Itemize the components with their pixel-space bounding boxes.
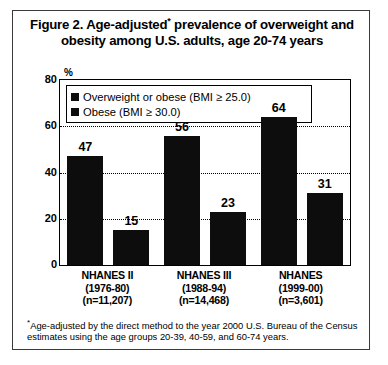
bar-value-label: 31 <box>318 177 332 191</box>
bar-value-label: 47 <box>78 140 92 154</box>
bar <box>164 136 200 266</box>
title-text-primary: Figure 2. Age-adjusted <box>30 17 167 32</box>
bar-value-label: 15 <box>124 214 138 228</box>
figure-container: Figure 2. Age-adjusted* prevalence of ov… <box>12 10 370 350</box>
x-axis-label-line: (n=14,468) <box>156 294 253 307</box>
figure-footnote: *Age-adjusted by the direct method to th… <box>27 320 361 343</box>
x-axis-group-label: NHANES(1999-00)(n=3,601) <box>252 269 349 307</box>
legend-swatch-icon <box>71 93 79 101</box>
x-axis-label-line: NHANES II <box>59 269 156 282</box>
y-axis: 020406080 <box>27 79 57 266</box>
x-axis-label-line: NHANES <box>252 269 349 282</box>
y-axis-tick-label: 20 <box>35 212 57 224</box>
x-axis-label-line: (n=3,601) <box>252 294 349 307</box>
bar-value-label: 64 <box>272 101 286 115</box>
bar <box>67 156 103 265</box>
x-axis-label-line: NHANES III <box>156 269 253 282</box>
x-axis-group-label: NHANES II(1976-80)(n=11,207) <box>59 269 156 307</box>
legend-label: Obese (BMI ≥ 30.0) <box>83 106 181 118</box>
x-axis-label-line: (1976-80) <box>59 282 156 295</box>
y-axis-unit-label: % <box>64 67 73 78</box>
x-axis-group-label: NHANES III(1988-94)(n=14,468) <box>156 269 253 307</box>
x-axis-label-line: (1999-00) <box>252 282 349 295</box>
x-axis-category-labels: NHANES II(1976-80)(n=11,207)NHANES III(1… <box>59 269 351 319</box>
bar <box>210 212 246 265</box>
bar <box>307 193 343 265</box>
y-axis-tick-label: 0 <box>35 258 57 270</box>
plot-area: Overweight or obese (BMI ≥ 25.0) Obese (… <box>59 79 351 266</box>
bar-value-label: 23 <box>221 196 235 210</box>
page-title: Figure 2. Age-adjusted* prevalence of ov… <box>21 17 363 49</box>
gridline <box>60 173 350 174</box>
bar <box>261 117 297 265</box>
x-axis-label-line: (n=11,207) <box>59 294 156 307</box>
x-axis-label-line: (1988-94) <box>156 282 253 295</box>
legend-label: Overweight or obese (BMI ≥ 25.0) <box>83 91 251 103</box>
y-axis-tick-label: 40 <box>35 166 57 178</box>
y-axis-tick-label: 80 <box>35 73 57 85</box>
footnote-text: Age-adjusted by the direct method to the… <box>27 320 357 342</box>
bar-value-label: 56 <box>175 120 189 134</box>
gridline <box>60 126 350 127</box>
y-axis-tick-label: 60 <box>35 119 57 131</box>
legend-swatch-icon <box>71 108 79 116</box>
bar <box>113 230 149 265</box>
